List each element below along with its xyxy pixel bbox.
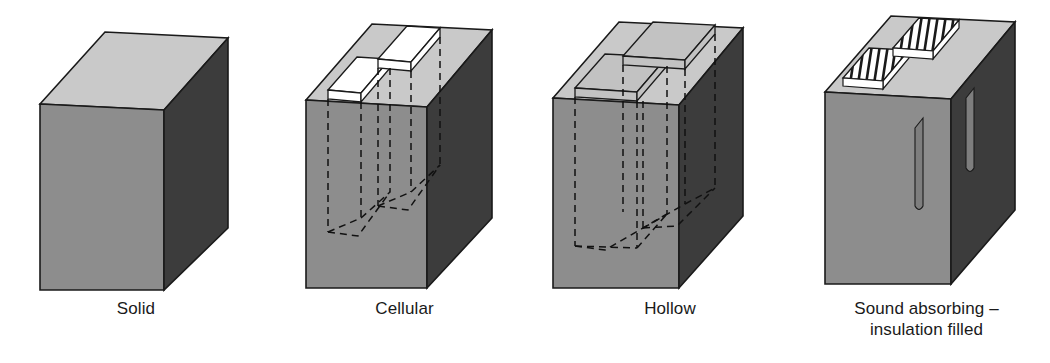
sound-slot-2-front [966, 88, 974, 172]
block-figure-solid: Solid [0, 0, 272, 363]
sound-slot-1-front [915, 118, 923, 210]
sound-absorbing-block-drawing [803, 0, 1050, 300]
block-label-hollow: Hollow [537, 298, 803, 319]
hollow-block-drawing [537, 0, 803, 300]
block-figure-hollow: Hollow [537, 0, 803, 363]
block-type-row: Solid [0, 0, 1050, 363]
block-art-cellular [272, 0, 537, 300]
block-figure-cellular: Cellular [272, 0, 537, 363]
hollow-left-face [553, 98, 679, 288]
cellular-block-drawing [272, 0, 537, 300]
block-art-sound-absorbing [803, 0, 1050, 300]
block-figure-sound-absorbing: Sound absorbing – insulation filled [803, 0, 1050, 363]
block-art-solid [0, 0, 272, 300]
block-label-solid: Solid [0, 298, 272, 319]
cellular-left-face [306, 100, 427, 288]
sound-left-face [825, 92, 951, 284]
solid-left-face [40, 104, 164, 290]
solid-block-drawing [0, 0, 272, 300]
figure-canvas: Solid [0, 0, 1050, 363]
block-art-hollow [537, 0, 803, 300]
block-label-sound-absorbing: Sound absorbing – insulation filled [803, 298, 1050, 340]
block-label-cellular: Cellular [272, 298, 537, 319]
